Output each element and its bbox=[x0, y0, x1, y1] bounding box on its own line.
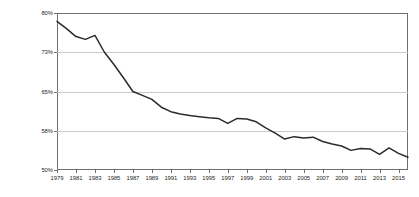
y-tick-label: 58% bbox=[23, 128, 53, 134]
x-tick-mark bbox=[247, 170, 248, 173]
x-tick-mark bbox=[399, 170, 400, 173]
x-tick-mark bbox=[285, 170, 286, 173]
chart-screenshot: Ratio of high school to college graduate… bbox=[0, 0, 419, 197]
y-tick-label: 50% bbox=[23, 167, 53, 173]
x-tick-mark bbox=[266, 170, 267, 173]
x-tick-mark bbox=[190, 170, 191, 173]
x-tick-mark bbox=[152, 170, 153, 173]
x-tick-mark bbox=[57, 170, 58, 173]
x-tick-label: 2015 bbox=[388, 175, 410, 182]
x-tick-mark bbox=[171, 170, 172, 173]
x-tick-mark bbox=[133, 170, 134, 173]
wage-ratio-line bbox=[57, 21, 408, 157]
x-tick-mark bbox=[114, 170, 115, 173]
x-tick-mark bbox=[361, 170, 362, 173]
y-tick-label: 73% bbox=[23, 49, 53, 55]
x-tick-mark bbox=[342, 170, 343, 173]
x-tick-mark bbox=[76, 170, 77, 173]
x-tick-mark bbox=[209, 170, 210, 173]
x-tick-mark bbox=[228, 170, 229, 173]
series-layer bbox=[57, 13, 408, 170]
y-tick-label: 65% bbox=[23, 89, 53, 95]
x-tick-mark bbox=[323, 170, 324, 173]
x-tick-mark bbox=[95, 170, 96, 173]
x-tick-mark bbox=[304, 170, 305, 173]
line-chart-figure: Ratio of high school to college graduate… bbox=[0, 0, 419, 197]
y-tick-label: 80% bbox=[23, 10, 53, 16]
x-tick-mark bbox=[380, 170, 381, 173]
